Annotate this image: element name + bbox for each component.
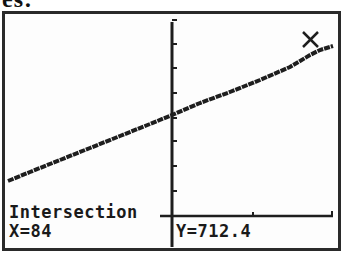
y-readout: Y=712.4 xyxy=(176,222,251,240)
intersection-label: Intersection xyxy=(9,203,138,221)
x-cursor-icon xyxy=(303,32,318,47)
x-readout: X=84 xyxy=(9,222,52,240)
